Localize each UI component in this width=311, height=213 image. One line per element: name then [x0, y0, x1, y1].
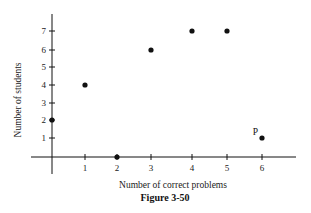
x-tick-label: 6 — [260, 163, 265, 173]
y-tick-label: 5 — [42, 62, 47, 72]
data-point — [259, 135, 264, 140]
data-point — [224, 28, 229, 33]
y-tick-label: 3 — [42, 98, 47, 108]
y-tick-label: 2 — [42, 115, 47, 125]
y-tick-label: 7 — [42, 26, 47, 36]
data-point — [148, 47, 153, 52]
point-label: P — [253, 127, 258, 137]
x-tick-label: 5 — [225, 163, 230, 173]
y-axis-label: Number of students — [13, 62, 23, 137]
data-point — [82, 82, 87, 87]
data-point — [189, 28, 194, 33]
figure-caption: Figure 3-50 — [141, 192, 190, 203]
scatter-plot: 1234561234567 P Number of correct proble… — [0, 0, 311, 213]
y-tick-label: 6 — [42, 45, 47, 55]
data-point — [49, 117, 54, 122]
x-tick-label: 4 — [190, 163, 195, 173]
x-tick-label: 2 — [115, 163, 120, 173]
x-axis-label: Number of correct problems — [119, 180, 227, 190]
data-point — [114, 154, 119, 159]
data-points: P — [49, 28, 264, 159]
y-tick-label: 1 — [42, 133, 47, 143]
x-tick-label: 3 — [149, 163, 154, 173]
y-tick-label: 4 — [42, 80, 47, 90]
axes: 1234561234567 — [31, 14, 296, 174]
x-tick-label: 1 — [83, 163, 88, 173]
